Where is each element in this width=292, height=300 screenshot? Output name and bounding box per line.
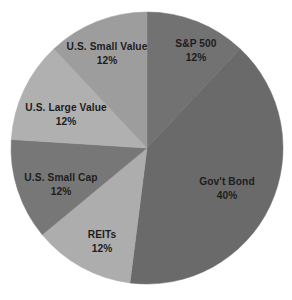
- slice-name-label: Gov't Bond: [199, 176, 254, 187]
- slice-name-label: U.S. Large Value: [25, 102, 107, 113]
- pie-chart-container: S&P 50012%Gov't Bond40%REITs12%U.S. Smal…: [0, 0, 292, 300]
- slice-value-label: 12%: [56, 116, 77, 127]
- slice-name-label: S&P 500: [175, 38, 217, 49]
- slice-name-label: REITs: [88, 229, 117, 240]
- slice-name-label: U.S. Small Value: [67, 41, 148, 52]
- slice-value-label: 12%: [51, 186, 72, 197]
- slice-value-label: 40%: [217, 190, 238, 201]
- slice-value-label: 12%: [97, 55, 118, 66]
- slice-value-label: 12%: [92, 243, 113, 254]
- pie-slices: [11, 12, 283, 284]
- pie-chart: S&P 50012%Gov't Bond40%REITs12%U.S. Smal…: [0, 0, 292, 300]
- slice-value-label: 12%: [186, 52, 207, 63]
- slice-name-label: U.S. Small Cap: [24, 172, 97, 183]
